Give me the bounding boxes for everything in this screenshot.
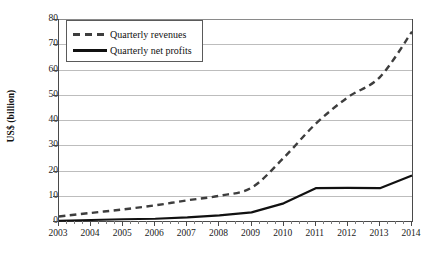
x-axis-minor-tick <box>66 221 67 224</box>
x-axis-minor-tick <box>146 221 147 224</box>
x-axis-minor-tick <box>259 221 260 224</box>
y-axis-title-text: US$ (billion) <box>6 90 16 143</box>
legend-dashed-line-icon <box>73 29 107 39</box>
x-axis-minor-tick <box>387 221 388 224</box>
x-axis-minor-tick <box>299 221 300 224</box>
x-axis-minor-tick <box>331 221 332 224</box>
legend-label-revenues: Quarterly revenues <box>110 29 186 40</box>
legend-item-revenues: Quarterly revenues <box>73 26 186 42</box>
x-axis-minor-tick <box>106 221 107 224</box>
legend-label-profits: Quarterly net profits <box>110 45 192 56</box>
x-axis-minor-tick <box>138 221 139 224</box>
chart-legend: Quarterly revenues Quarterly net profits <box>66 20 203 62</box>
x-axis-tick-label: 2014 <box>391 228 430 239</box>
x-axis-minor-tick <box>82 221 83 224</box>
x-axis-minor-tick <box>194 221 195 224</box>
x-axis-minor-tick <box>202 221 203 224</box>
x-axis-minor-tick <box>363 221 364 224</box>
x-axis-tick-mark <box>218 221 219 226</box>
x-axis: 2003200420052006200720082009201020112012… <box>58 221 413 254</box>
x-axis-minor-tick <box>403 221 404 224</box>
chart-container: US$ (billion) 01020304050607080 20032004… <box>0 0 430 254</box>
x-axis-minor-tick <box>130 221 131 224</box>
x-axis-tick-mark <box>283 221 284 226</box>
x-axis-tick-mark <box>251 221 252 226</box>
x-axis-minor-tick <box>235 221 236 224</box>
x-axis-tick-mark <box>154 221 155 226</box>
legend-item-profits: Quarterly net profits <box>73 42 192 58</box>
x-axis-minor-tick <box>74 221 75 224</box>
legend-solid-line-icon <box>73 45 107 55</box>
x-axis-tick-mark <box>347 221 348 226</box>
x-axis-tick-mark <box>379 221 380 226</box>
x-axis-minor-tick <box>355 221 356 224</box>
x-axis-tick-mark <box>186 221 187 226</box>
x-axis-minor-tick <box>114 221 115 224</box>
x-axis-minor-tick <box>323 221 324 224</box>
x-axis-minor-tick <box>267 221 268 224</box>
x-axis-tick-mark <box>411 221 412 226</box>
x-axis-minor-tick <box>226 221 227 224</box>
x-axis-minor-tick <box>243 221 244 224</box>
x-axis-minor-tick <box>291 221 292 224</box>
x-axis-tick-mark <box>315 221 316 226</box>
x-axis-minor-tick <box>339 221 340 224</box>
x-axis-minor-tick <box>371 221 372 224</box>
y-axis: 01020304050607080 <box>18 19 58 221</box>
x-axis-minor-tick <box>170 221 171 224</box>
x-axis-minor-tick <box>307 221 308 224</box>
x-axis-minor-tick <box>210 221 211 224</box>
x-axis-minor-tick <box>275 221 276 224</box>
x-axis-tick-mark <box>58 221 59 226</box>
x-axis-minor-tick <box>98 221 99 224</box>
series-line-profits <box>59 176 412 221</box>
x-axis-tick-mark <box>90 221 91 226</box>
x-axis-tick-mark <box>122 221 123 226</box>
x-axis-minor-tick <box>178 221 179 224</box>
x-axis-minor-tick <box>162 221 163 224</box>
x-axis-minor-tick <box>395 221 396 224</box>
